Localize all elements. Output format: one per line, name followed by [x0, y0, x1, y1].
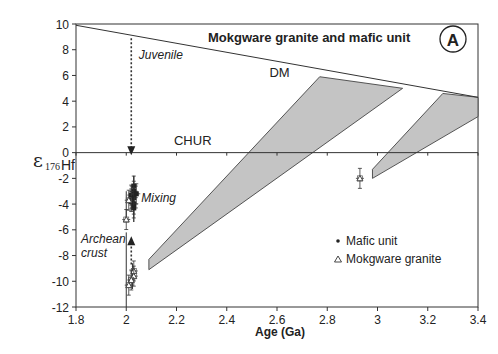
y-tick-label: -6 — [58, 223, 69, 237]
panel-label: A — [440, 26, 466, 52]
arrow-head — [127, 146, 135, 155]
x-tick-label: 1.8 — [68, 313, 85, 327]
annotation-mixing: Mixing — [141, 191, 176, 205]
chart-title: Mokgware granite and mafic unit — [208, 30, 411, 45]
x-axis-label: Age (Ga) — [255, 325, 305, 339]
legend-dot-icon — [336, 239, 340, 243]
panel-label-text: A — [447, 31, 459, 50]
legend: Mafic unitMokgware granite — [335, 234, 442, 266]
arrows — [127, 38, 135, 264]
annotation-juvenile: Juvenile — [138, 48, 183, 62]
y-tick-label: 4 — [62, 95, 69, 109]
y-tick-label: -8 — [58, 249, 69, 263]
evolution-band — [372, 93, 478, 178]
y-tick-label: -4 — [58, 198, 69, 212]
y-tick-label: 6 — [62, 69, 69, 83]
y-tick-label: 10 — [56, 18, 70, 32]
y-tick-label: -2 — [58, 172, 69, 186]
y-tick-label: 2 — [62, 120, 69, 134]
svg-text:Hf: Hf — [61, 157, 75, 173]
x-tick-label: 2.2 — [168, 313, 185, 327]
annotation-crust: crust — [81, 246, 108, 260]
annotation-archean: Archean — [80, 232, 126, 246]
evolution-bands — [149, 77, 478, 270]
legend-triangle-icon — [335, 256, 342, 262]
x-tick-label: 3 — [374, 313, 381, 327]
arrow-head — [127, 236, 135, 245]
mafic-unit-point — [134, 191, 139, 196]
x-tick-label: 3.2 — [419, 313, 436, 327]
svg-text:ε: ε — [33, 149, 43, 171]
annotation-chur: CHUR — [174, 133, 212, 148]
legend-label: Mokgware granite — [346, 252, 442, 266]
svg-text:176: 176 — [45, 161, 60, 172]
annotation-dm: DM — [269, 65, 289, 80]
x-tick-label: 2 — [123, 313, 130, 327]
y-tick-label: 8 — [62, 43, 69, 57]
legend-label: Mafic unit — [346, 234, 398, 248]
x-tick-label: 3.4 — [470, 313, 487, 327]
mafic-unit-point — [131, 205, 136, 210]
chart-svg: 1086420-2-4-6-8-10-121.822.22.42.62.833.… — [0, 0, 498, 354]
x-tick-label: 2.8 — [319, 313, 336, 327]
y-tick-label: -10 — [52, 275, 70, 289]
x-tick-label: 2.4 — [218, 313, 235, 327]
